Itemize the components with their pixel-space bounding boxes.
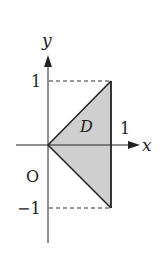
y-axis-label: y <box>41 30 52 50</box>
y-tick-minus-one: −1 <box>17 199 41 218</box>
region-label: D <box>79 117 93 136</box>
y-axis-arrow-icon <box>44 55 52 67</box>
y-tick-one: 1 <box>31 72 41 91</box>
coordinate-diagram: y x 1 1 O −1 D <box>0 0 167 255</box>
x-axis-label: x <box>142 135 152 155</box>
x-axis-arrow-icon <box>128 141 140 149</box>
x-tick-one: 1 <box>120 119 130 138</box>
origin-label: O <box>26 167 39 186</box>
